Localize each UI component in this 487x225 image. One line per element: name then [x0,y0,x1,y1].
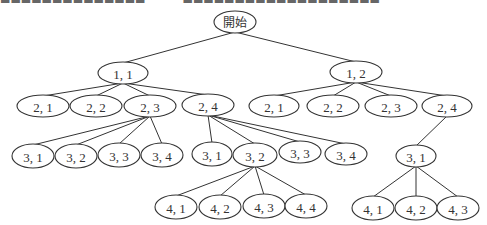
node-label: 1, 2 [346,66,366,81]
node-label: 4, 3 [448,202,468,217]
tree-node-M3_2: 3, 2 [233,143,277,167]
tree-node-A3_3: 3, 3 [98,143,140,167]
edge-A2_4-to-M3_4 [208,115,346,144]
tree-node-B2_2: 2, 2 [307,95,359,117]
node-label: 3, 4 [152,149,172,164]
tree-node-A3_4: 3, 4 [141,143,183,167]
node-label: 2, 3 [140,100,160,115]
node-label: 3, 2 [66,150,86,165]
node-label: 4, 2 [210,201,230,216]
tree-node-B2_4: 2, 4 [422,95,472,117]
tree-node-A2_4: 2, 4 [182,94,234,116]
tree-node-M3_3: 3, 3 [279,141,321,163]
tree-node-B2_3: 2, 3 [365,95,417,117]
tree-node-L1_2: 1, 2 [330,61,382,83]
edge-A2_4-to-M3_3 [208,115,300,142]
node-label: 3, 4 [336,148,356,163]
tree-node-M4_2: 4, 2 [199,195,241,219]
tree-node-M3_1: 3, 1 [192,142,232,166]
tree-node-R4_2: 4, 2 [395,196,437,220]
tree-node-M4_1: 4, 1 [155,195,197,219]
node-label: 4, 3 [254,200,274,215]
edge-L1_2-to-B2_3 [356,82,391,96]
node-label: 3, 2 [245,149,265,164]
tree-node-A2_2: 2, 2 [70,95,122,117]
node-label: 2, 4 [437,100,457,115]
edge-L1_1-to-A2_1 [43,83,123,96]
tree-node-M4_4: 4, 4 [285,194,327,218]
tree-node-M4_3: 4, 3 [243,194,285,218]
node-label: 4, 1 [363,202,383,217]
tree-node-A3_1: 3, 1 [12,144,54,168]
node-label: 3, 1 [406,150,426,165]
node-label: 4, 2 [406,202,426,217]
node-label: 4, 1 [166,201,186,216]
edge-B2_4-to-R3_1 [416,116,447,146]
node-label: 2, 1 [264,100,284,115]
node-label: 開始 [223,16,247,30]
node-label: 3, 1 [202,148,222,163]
tree-node-B2_1: 2, 1 [249,95,299,117]
node-label: 3, 3 [290,146,310,161]
node-label: 2, 2 [323,100,343,115]
node-label: 2, 4 [198,99,218,114]
edge-A2_4-to-M3_2 [208,115,255,144]
node-label: 4, 4 [296,200,316,215]
edge-A2_3-to-A3_2 [76,116,150,145]
tree-node-M3_4: 3, 4 [325,143,367,165]
edge-root-to-L1_1 [123,32,235,63]
tree-nodes: 開始1, 11, 22, 12, 22, 32, 42, 12, 22, 32,… [12,11,479,220]
edge-M3_2-to-M4_1 [176,166,255,196]
edge-M3_2-to-M4_2 [220,166,255,196]
tree-node-A3_2: 3, 2 [55,144,97,168]
tree-node-R4_1: 4, 1 [352,196,394,220]
edge-R3_1-to-R4_1 [373,166,416,197]
node-label: 1, 1 [113,67,133,82]
node-label: 2, 1 [33,100,53,115]
edge-A2_3-to-A3_1 [33,116,150,145]
tree-node-R3_1: 3, 1 [396,145,436,167]
tree-node-L1_1: 1, 1 [98,62,148,84]
node-label: 2, 2 [86,100,106,115]
node-label: 3, 1 [23,150,43,165]
tree-node-A2_3: 2, 3 [124,95,176,117]
tree-node-R4_3: 4, 3 [437,196,479,220]
edge-root-to-L1_2 [235,32,356,62]
tree-node-root: 開始 [214,11,256,33]
node-label: 2, 3 [381,100,401,115]
edge-R3_1-to-R4_3 [416,166,458,197]
edge-A2_3-to-A3_4 [150,116,162,144]
node-label: 3, 3 [109,149,129,164]
edge-L1_2-to-B2_4 [356,82,447,96]
edge-A2_4-to-M3_1 [208,115,212,143]
tree-diagram: 開始1, 11, 22, 12, 22, 32, 42, 12, 22, 32,… [0,0,487,225]
tree-node-A2_1: 2, 1 [17,95,69,117]
